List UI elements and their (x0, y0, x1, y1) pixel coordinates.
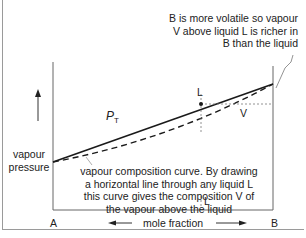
arrow-right-icon (239, 221, 247, 226)
x-axis-left-end: A (50, 217, 57, 230)
callout-leader (276, 55, 293, 88)
callout-line: B is more volatile so vapour (148, 12, 298, 25)
arrow-up-icon (35, 89, 41, 97)
total-pressure-label: PT (106, 110, 119, 128)
liquid-point-label: L (197, 86, 203, 99)
vapour-point-label: V (240, 107, 247, 120)
liquid-point-marker (199, 102, 203, 106)
callout-line: V above liquid L is richer in (148, 25, 298, 38)
annotation-line: this curve gives the composition V of (64, 190, 274, 203)
y-label-line: pressure (6, 161, 52, 174)
x-axis-right-end: B (271, 217, 278, 230)
callout-line: B than the liquid (148, 37, 298, 50)
pt-main: P (106, 109, 114, 123)
y-label-line: vapour (6, 148, 52, 161)
annotation-leader (86, 157, 92, 165)
annotation-line: the vapour above the liquid (64, 203, 274, 216)
x-axis-label: mole fraction (143, 217, 203, 230)
arrow-left-icon (108, 221, 116, 226)
total-pressure-line (53, 84, 273, 162)
y-axis-label: vapour pressure (6, 148, 52, 173)
annotation-line: vapour composition curve. By drawing (64, 165, 274, 178)
vapour-curve-annotation: vapour composition curve. By drawing a h… (64, 165, 274, 215)
liquid-axis-marker: L (204, 195, 210, 208)
pt-subscript: T (114, 116, 119, 125)
volatility-callout: B is more volatile so vapour V above liq… (148, 12, 298, 50)
annotation-line: a horizontal line through any liquid L (64, 178, 274, 191)
